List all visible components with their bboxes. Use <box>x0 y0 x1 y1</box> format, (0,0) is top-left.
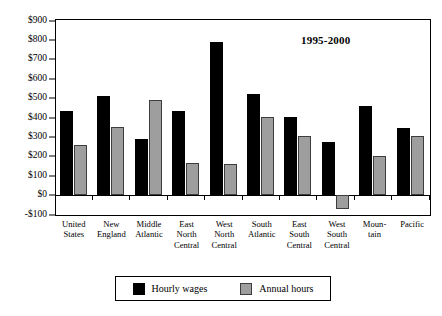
bar-annual-hours <box>74 145 87 194</box>
x-axis-label-line: England <box>94 229 130 239</box>
x-axis-label-line: Atlantic <box>244 229 280 239</box>
x-axis-label: WestSouthCentral <box>318 219 356 265</box>
x-axis-label-line: New <box>94 219 130 229</box>
bar-group <box>393 20 430 215</box>
bar-annual-hours <box>411 136 424 194</box>
bar-group <box>56 20 93 215</box>
x-axis-label-line: Moun- <box>357 219 393 229</box>
bar-group <box>168 20 205 215</box>
x-axis-label-line: Central <box>169 240 205 250</box>
bar-group <box>93 20 130 215</box>
bar-hourly-wages <box>284 117 297 195</box>
x-axis-label: UnitedStates <box>55 219 93 265</box>
x-axis-label: NewEngland <box>93 219 131 265</box>
bar-group <box>131 20 168 215</box>
x-axis-label: EastSouthCentral <box>281 219 319 265</box>
bar-group <box>355 20 392 215</box>
x-axis-label-line: Pacific <box>394 219 430 229</box>
plot-frame: 1995-2000 <box>55 19 431 216</box>
y-axis-tick-label: $200 <box>28 152 47 162</box>
period-annotation: 1995-2000 <box>301 34 350 46</box>
y-axis-tick-label: $600 <box>28 74 47 84</box>
x-axis-label-line: West <box>206 219 242 229</box>
chart-legend: Hourly wagesAnnual hours <box>115 276 331 301</box>
x-axis-labels: UnitedStatesNewEnglandMiddleAtlanticEast… <box>55 219 431 265</box>
bar-group <box>318 20 355 215</box>
x-axis-label-line: Central <box>319 240 355 250</box>
x-axis-label: Pacific <box>393 219 431 265</box>
bar-group <box>243 20 280 215</box>
bar-hourly-wages <box>322 142 335 194</box>
y-axis-tick-label: $700 <box>28 55 47 65</box>
bar-hourly-wages <box>135 139 148 194</box>
x-axis-tick-mark <box>429 195 430 200</box>
x-axis-label-line: East <box>282 219 318 229</box>
legend-swatch-wages <box>133 283 145 295</box>
x-axis-label-line: South <box>244 219 280 229</box>
x-axis-label: EastNorthCentral <box>168 219 206 265</box>
x-axis-label-line: North <box>206 229 242 239</box>
x-axis-label-line: States <box>56 229 92 239</box>
x-axis-label: SouthAtlantic <box>243 219 281 265</box>
x-axis-label: Moun-tain <box>356 219 394 265</box>
y-axis: $900$800$700$600$500$400$300$200$100$0-$… <box>0 19 55 216</box>
x-axis-label-line: South <box>282 229 318 239</box>
bar-hourly-wages <box>247 94 260 195</box>
plot-area <box>56 20 430 215</box>
y-axis-tick-label: $300 <box>28 132 47 142</box>
legend-entry: Hourly wages <box>133 283 208 295</box>
x-axis-label: WestNorthCentral <box>205 219 243 265</box>
bar-group <box>206 20 243 215</box>
bar-annual-hours <box>336 195 349 210</box>
x-axis-label-line: Central <box>282 240 318 250</box>
top-caption <box>62 0 232 6</box>
bar-annual-hours <box>224 164 237 195</box>
x-axis-label-line: Central <box>206 240 242 250</box>
bar-hourly-wages <box>359 106 372 194</box>
bar-annual-hours <box>373 156 386 195</box>
y-axis-tick-label: $800 <box>28 35 47 45</box>
x-axis-label-line: North <box>169 229 205 239</box>
chart-figure: $900$800$700$600$500$400$300$200$100$0-$… <box>0 0 442 316</box>
y-axis-tick-label: $900 <box>28 16 47 26</box>
x-axis-label: MiddleAtlantic <box>130 219 168 265</box>
bar-annual-hours <box>298 136 311 194</box>
x-axis-label-line: West <box>319 219 355 229</box>
x-axis-label-line: Atlantic <box>131 229 167 239</box>
bar-annual-hours <box>111 127 124 195</box>
y-axis-tick-label: $100 <box>28 171 47 181</box>
y-axis-tick-label: $400 <box>28 113 47 123</box>
x-axis-label-line: United <box>56 219 92 229</box>
bar-hourly-wages <box>97 96 110 195</box>
x-axis-label-line: tain <box>357 229 393 239</box>
y-axis-tick-label: $500 <box>28 93 47 103</box>
legend-label: Hourly wages <box>152 284 208 294</box>
bar-hourly-wages <box>60 111 73 194</box>
x-axis-label-line: East <box>169 219 205 229</box>
y-axis-tick-label: -$100 <box>25 210 47 220</box>
bar-groups <box>56 20 430 215</box>
bar-hourly-wages <box>172 111 185 194</box>
bar-group <box>280 20 317 215</box>
x-axis-label-line: South <box>319 229 355 239</box>
bar-annual-hours <box>261 117 274 195</box>
legend-label: Annual hours <box>259 284 313 294</box>
bar-hourly-wages <box>210 42 223 194</box>
legend-entry: Annual hours <box>240 283 313 295</box>
bar-annual-hours <box>186 163 199 195</box>
bar-annual-hours <box>149 100 162 195</box>
x-axis-label-line: Middle <box>131 219 167 229</box>
y-axis-tick-label: $0 <box>38 190 48 200</box>
legend-swatch-hours <box>240 283 252 295</box>
bar-hourly-wages <box>397 128 410 195</box>
